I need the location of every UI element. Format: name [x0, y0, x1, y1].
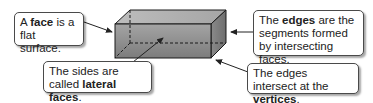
callout-text: .	[296, 93, 299, 103]
term-face: face	[30, 16, 53, 28]
callout-lateral-faces: The sides are called lateral faces.	[43, 61, 152, 93]
callout-text: A	[20, 16, 30, 28]
term-edges: edges	[282, 14, 315, 26]
prism	[115, 10, 226, 58]
arrow-face	[84, 22, 112, 32]
term-vertices: vertices	[253, 93, 296, 103]
callout-text: The	[259, 14, 282, 26]
callout-face: A face is a flat surface.	[14, 12, 84, 46]
callout-text: The edges intersect at the	[253, 67, 328, 92]
arrow-vertices	[216, 60, 248, 72]
callout-text: .	[78, 91, 81, 103]
callout-vertices: The edges intersect at the vertices.	[247, 63, 359, 94]
callout-edges: The edges are the segments formed by int…	[253, 10, 364, 56]
